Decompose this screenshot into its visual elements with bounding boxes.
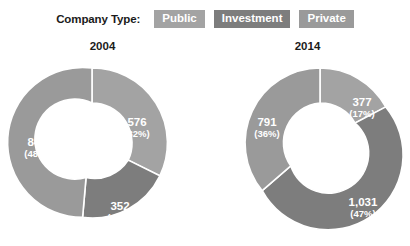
slice-label-public-pct-2014: (17%) — [349, 108, 374, 119]
charts-container: 2004 576 (32%) 352 (20%) 848 (48%) 2014 — [0, 36, 410, 246]
donut-title-2014: 2014 — [205, 40, 410, 52]
slice-label-private-value-2014: 791 — [257, 116, 277, 128]
slice-label-investment-pct-2004: (20%) — [107, 212, 132, 223]
donut-chart-2004: 2004 576 (32%) 352 (20%) 848 (48%) — [0, 36, 205, 246]
slice-label-investment-pct-2014: (47%) — [350, 208, 375, 219]
slice-label-public-pct-2004: (32%) — [124, 128, 149, 139]
slice-label-private-value-2004: 848 — [27, 136, 47, 148]
donut-slice-private-2004[interactable] — [8, 67, 92, 217]
slice-label-investment-value-2004: 352 — [110, 200, 129, 212]
slice-label-private-pct-2004: (48%) — [24, 148, 49, 159]
slice-label-private-pct-2014: (36%) — [254, 128, 279, 139]
slice-label-public-value-2004: 576 — [127, 116, 146, 128]
legend-title: Company Type: — [56, 13, 140, 25]
legend-item-public[interactable]: Public — [154, 10, 205, 28]
donut-chart-2014: 2014 377 (17%) 1,031 (47%) 791 (36%) — [205, 36, 410, 246]
donut-svg-2004: 576 (32%) 352 (20%) 848 (48%) — [0, 58, 205, 244]
slice-label-public-value-2014: 377 — [352, 96, 371, 108]
legend-item-investment[interactable]: Investment — [214, 10, 291, 28]
legend: Company Type: Public Investment Private — [0, 8, 410, 30]
legend-item-private[interactable]: Private — [299, 10, 353, 28]
donut-title-2004: 2004 — [0, 40, 205, 52]
donut-svg-2014: 377 (17%) 1,031 (47%) 791 (36%) — [205, 58, 410, 244]
slice-label-investment-value-2014: 1,031 — [349, 196, 378, 208]
